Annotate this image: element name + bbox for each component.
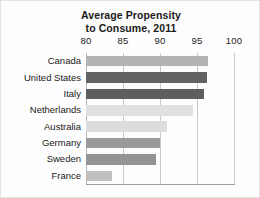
category-label: France (51, 171, 81, 181)
bar (86, 105, 193, 116)
category-label: Italy (64, 89, 81, 99)
x-tick-label: 85 (103, 35, 143, 46)
category-label: Germany (42, 138, 81, 148)
bar-row: Netherlands (86, 105, 234, 116)
chart-figure: Average Propensity to Consume, 2011 8085… (0, 0, 260, 198)
bar-row: Germany (86, 138, 234, 149)
bar-row: Sweden (86, 154, 234, 165)
bar-row: Canada (86, 56, 234, 67)
bar (86, 171, 112, 182)
x-tick-label: 90 (140, 35, 180, 46)
chart-title: Average Propensity to Consume, 2011 (1, 9, 260, 34)
chart-title-line-1: Average Propensity (1, 9, 260, 22)
plot-area: CanadaUnited StatesItalyNetherlandsAustr… (86, 53, 234, 184)
bar (86, 56, 208, 67)
bar (86, 121, 167, 132)
bar (86, 154, 156, 165)
category-label: Australia (44, 122, 81, 132)
gridline (234, 53, 235, 184)
category-label: United States (24, 73, 81, 83)
category-label: Canada (48, 56, 81, 66)
bar (86, 72, 207, 83)
bar-row: Italy (86, 89, 234, 100)
chart-title-line-2: to Consume, 2011 (1, 22, 260, 35)
category-label: Sweden (47, 154, 81, 164)
bar-row: Australia (86, 121, 234, 132)
bar-row: France (86, 171, 234, 182)
x-axis-line (86, 184, 235, 185)
x-tick-label: 100 (214, 35, 254, 46)
category-label: Netherlands (30, 105, 81, 115)
bar (86, 138, 160, 149)
x-tick-label: 80 (66, 35, 106, 46)
x-axis-tick-labels: 80859095100 (1, 35, 260, 49)
bar-row: United States (86, 72, 234, 83)
bar (86, 89, 204, 100)
x-tick-label: 95 (177, 35, 217, 46)
